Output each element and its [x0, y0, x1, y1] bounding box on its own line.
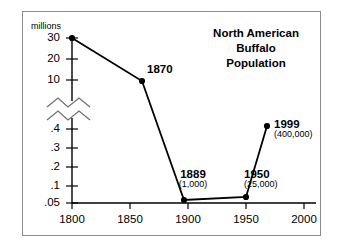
data-point-1999[interactable] [264, 123, 270, 129]
annotation-1999-value: (400,000) [274, 130, 313, 139]
x-tick-label-2000: 2000 [276, 214, 332, 226]
data-point-1800[interactable] [69, 35, 75, 41]
data-point-1950[interactable] [243, 194, 249, 200]
annotation-1950-value: (25,000) [244, 180, 278, 189]
annotation-1889-value: (1,000) [167, 180, 219, 189]
annotation-1950: 1950 (25,000) [244, 168, 278, 190]
y-tick-label-point05: .05 [20, 197, 60, 209]
y-tick-label-10: 10 [20, 74, 60, 86]
x-tick-label-1900: 1900 [160, 214, 216, 226]
data-point-1889[interactable] [181, 197, 187, 203]
broken-axis-zigzag [47, 98, 90, 120]
chart-title-line-1: North American [196, 26, 316, 41]
annotation-1870: 1870 [147, 63, 173, 75]
y-tick-label-point2: .2 [20, 161, 60, 173]
annotation-1870-year: 1870 [147, 63, 173, 75]
x-tick-label-1950: 1950 [218, 214, 274, 226]
y-tick-label-point4: .4 [20, 123, 60, 135]
chart-title-line-3: Population [196, 56, 316, 71]
chart-title-line-2: Buffalo [196, 41, 316, 56]
annotation-1999: 1999 (400,000) [274, 118, 313, 140]
annotation-1889: 1889 (1,000) [167, 168, 219, 190]
x-tick-marks [72, 203, 304, 209]
y-tick-label-20: 20 [20, 53, 60, 65]
chart-title: North American Buffalo Population [196, 26, 316, 71]
x-tick-label-1850: 1850 [102, 214, 158, 226]
y-tick-label-30: 30 [20, 32, 60, 44]
y-tick-label-point1: .1 [20, 180, 60, 192]
chart-figure: millions 30 20 10 .4 .3 .2 .1 .05 1800 1… [0, 0, 342, 247]
y-tick-label-point3: .3 [20, 142, 60, 154]
y-axis-units-label: millions [31, 22, 61, 31]
x-tick-label-1800: 1800 [44, 214, 100, 226]
data-point-1870[interactable] [139, 78, 145, 84]
